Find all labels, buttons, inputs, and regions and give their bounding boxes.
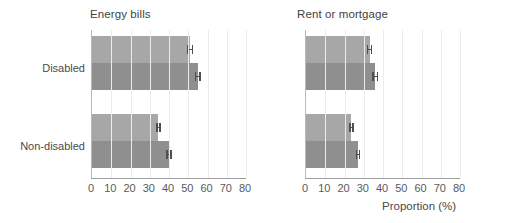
error-bar-cap-low (372, 72, 374, 81)
gridline (169, 30, 170, 178)
gridline (422, 30, 423, 178)
error-bar-cap-high (352, 123, 354, 132)
error-bar-disabled-dark (372, 72, 378, 81)
error-bar-non-disabled-dark (356, 150, 361, 159)
gridline (111, 30, 112, 178)
gridline (345, 30, 346, 178)
bar-chart-figure: Energy bills Disabled Non-disabled (0, 0, 514, 223)
gridline (208, 30, 209, 178)
error-bar-cap-low (156, 123, 158, 132)
x-axis-tick-label: 50 (395, 182, 407, 194)
x-axis-tick-label: 50 (181, 182, 193, 194)
x-axis-tick-label: 60 (414, 182, 426, 194)
x-axis-tick-label: 30 (357, 182, 369, 194)
x-axis-tick-labels-rent: 01020304050607080 (257, 182, 514, 198)
gridline (383, 30, 384, 178)
x-axis-tick-label: 40 (162, 182, 174, 194)
x-axis-tick-label: 70 (434, 182, 446, 194)
gridline (227, 30, 228, 178)
error-bar-cap-low (166, 150, 168, 159)
gridline (150, 30, 151, 178)
x-axis-tick-label: 20 (123, 182, 135, 194)
gridline (402, 30, 403, 178)
error-bar-cap-high (192, 45, 194, 54)
x-axis-tick-label: 40 (376, 182, 388, 194)
x-axis-tick-label: 30 (143, 182, 155, 194)
plot-area-rent-or-mortgage (305, 30, 460, 179)
x-axis-tick-label: 80 (239, 182, 251, 194)
bar-non-disabled-light (92, 114, 158, 141)
gridline (188, 30, 189, 178)
bar-disabled-dark (306, 63, 375, 90)
x-axis-title: Proportion (%) (382, 200, 456, 212)
error-bar-cap-low (349, 123, 351, 132)
error-bar-cap-high (159, 123, 161, 132)
gridline (325, 30, 326, 178)
bar-non-disabled-dark (306, 141, 358, 168)
error-bar-disabled-dark (195, 72, 201, 81)
x-axis-tick-label: 20 (337, 182, 349, 194)
x-axis-tick-label: 10 (104, 182, 116, 194)
x-axis-tick-label: 10 (318, 182, 330, 194)
gridline (441, 30, 442, 178)
panel-rent-or-mortgage: Rent or mortgage (257, 0, 514, 223)
x-axis-tick-label: 60 (200, 182, 212, 194)
error-bar-non-disabled-light (349, 123, 353, 132)
x-axis-tick-label: 70 (220, 182, 232, 194)
error-bar-cap-high (199, 72, 201, 81)
error-bar-cap-low (367, 45, 369, 54)
plot-area-energy-bills (91, 30, 246, 179)
error-bar-cap-high (371, 45, 373, 54)
ytick-label-non-disabled: Non-disabled (0, 140, 85, 152)
error-bar-cap-low (356, 150, 358, 159)
gridline (364, 30, 365, 178)
bar-disabled-light (92, 36, 190, 63)
error-bar-cap-high (359, 150, 361, 159)
gridline (460, 30, 461, 178)
ytick-label-disabled: Disabled (0, 62, 85, 74)
error-bar-non-disabled-light (156, 123, 161, 132)
error-bar-cap-low (195, 72, 197, 81)
gridline (131, 30, 132, 178)
x-axis-tick-label: 0 (302, 182, 308, 194)
panel-energy-bills: Energy bills Disabled Non-disabled (0, 0, 257, 223)
bar-disabled-light (306, 36, 370, 63)
error-bar-disabled-light (367, 45, 373, 54)
error-bar-cap-high (170, 150, 172, 159)
panel-title-rent-or-mortgage: Rent or mortgage (297, 8, 388, 20)
panel-title-energy-bills: Energy bills (90, 8, 151, 20)
x-axis-tick-label: 80 (453, 182, 465, 194)
error-bar-cap-high (377, 72, 379, 81)
x-axis-tick-labels-energy: 01020304050607080 (0, 182, 257, 198)
bar-disabled-dark (92, 63, 198, 90)
x-axis-tick-label: 0 (88, 182, 94, 194)
gridline (246, 30, 247, 178)
